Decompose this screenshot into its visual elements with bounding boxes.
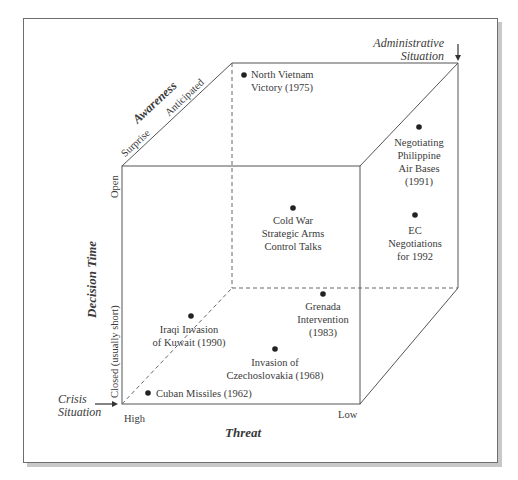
event-label-czechoslovakia: Czechoslovakia (1968) — [226, 370, 324, 382]
decision-time-open-label: Open — [109, 175, 120, 198]
administrative-situation-line2: Situation — [401, 49, 444, 63]
event-label-czechoslovakia: Invasion of — [251, 357, 299, 368]
event-label-cold-war: Control Talks — [264, 241, 321, 252]
event-label-cold-war: Cold War — [273, 215, 314, 226]
event-label-north-vietnam: Victory (1975) — [251, 82, 314, 94]
event-label-cuban-missiles: Cuban Missiles (1962) — [156, 388, 252, 400]
event-label-ec-negotiations: Negotiations — [388, 238, 442, 249]
cube-bottom-right-edge — [360, 288, 458, 404]
event-dot-czechoslovakia — [272, 346, 278, 352]
event-dot-cuban-missiles — [145, 390, 151, 396]
event-dot-grenada — [320, 291, 326, 297]
event-label-cold-war: Strategic Arms — [262, 228, 325, 239]
event-dot-cold-war — [290, 205, 296, 211]
event-dot-north-vietnam — [241, 72, 247, 78]
crisis-situation-line2: Situation — [58, 405, 101, 419]
event-label-philippine-bases: Philippine — [397, 150, 441, 161]
event-dot-philippine-bases — [416, 124, 422, 130]
decision-time-closed-label: Closed (usually short) — [109, 305, 121, 398]
event-label-philippine-bases: Negotiating — [394, 137, 444, 148]
crisis-situation-line1: Crisis — [58, 392, 87, 406]
administrative-arrow-icon — [455, 44, 461, 61]
event-dot-ec-negotiations — [412, 212, 418, 218]
threat-axis-title: Threat — [225, 425, 262, 440]
threat-high-label: High — [124, 413, 146, 424]
event-label-grenada: Grenada — [305, 301, 341, 312]
event-label-iraq-kuwait: Iraqi Invasion — [160, 324, 219, 335]
decision-time-axis-title: Decision Time — [84, 241, 99, 319]
event-label-grenada: Intervention — [297, 314, 349, 325]
crisis-cube-diagram: Surprise Anticipated Awareness Open Clos… — [0, 0, 518, 480]
cube-front-face — [122, 166, 360, 404]
event-label-iraq-kuwait: of Kuwait (1990) — [153, 337, 226, 349]
administrative-situation-line1: Administrative — [372, 36, 444, 50]
event-label-philippine-bases: (1991) — [405, 176, 433, 188]
threat-low-label: Low — [338, 409, 358, 420]
event-label-philippine-bases: Air Bases — [398, 163, 439, 174]
event-dot-iraq-kuwait — [188, 313, 194, 319]
event-label-ec-negotiations: EC — [408, 225, 421, 236]
event-label-north-vietnam: North Vietnam — [251, 69, 313, 80]
event-label-ec-negotiations: for 1992 — [397, 251, 433, 262]
event-label-grenada: (1983) — [309, 327, 337, 339]
